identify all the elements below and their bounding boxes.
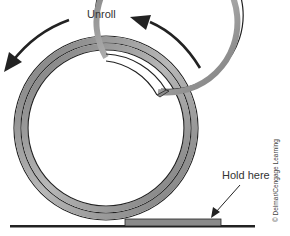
coil [14,0,243,220]
hold-here-arrow [211,185,240,218]
hold-here-label: Hold here [222,170,270,181]
tape-coil-diagram [0,0,290,236]
unroll-label: Unroll [87,9,116,20]
copyright-notice: © Delmar/Cengage Learning [272,139,279,222]
flat-strip [125,219,221,226]
